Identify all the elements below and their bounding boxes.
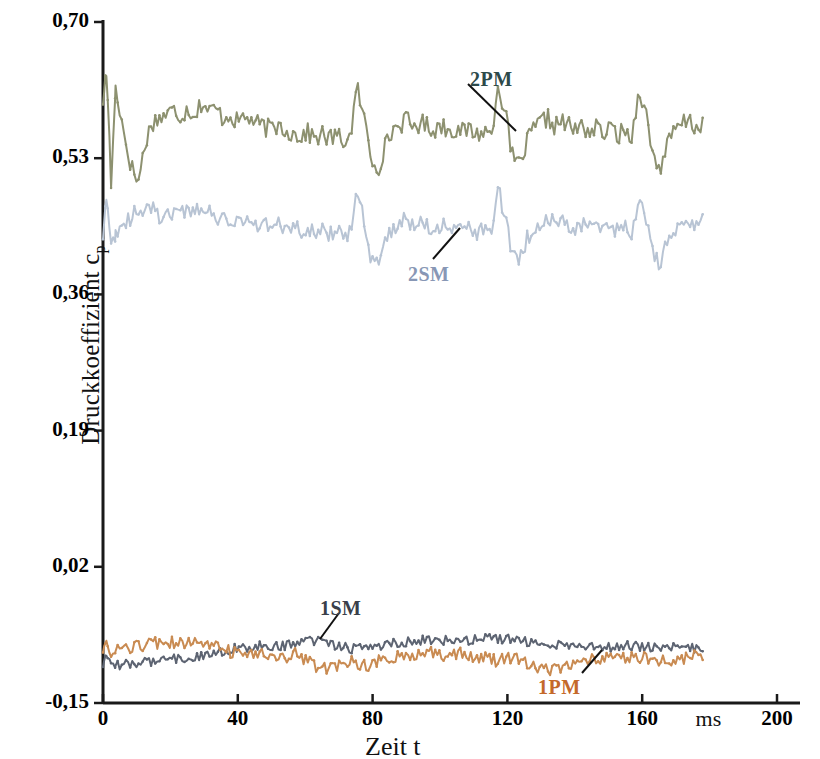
x-axis-unit-label: ms — [696, 706, 722, 732]
x-tick-label: 160 — [597, 706, 687, 731]
y-tick-label: 0,36 — [0, 280, 89, 305]
series-label-1pm: 1PM — [538, 676, 581, 699]
series-2sm — [102, 186, 704, 269]
series-line-1sm — [103, 634, 703, 669]
chart-canvas — [0, 0, 820, 759]
series-label-2sm: 2SM — [408, 263, 450, 286]
series-2pm — [102, 74, 704, 189]
series-label-1sm: 1SM — [320, 597, 362, 620]
annotation-leaders — [320, 84, 602, 673]
leader-line-2pm — [468, 84, 516, 131]
series-line-2sm — [103, 187, 703, 269]
series-markers-1sm — [102, 633, 704, 669]
leader-line-2sm — [433, 228, 460, 259]
series-line-2pm — [103, 75, 703, 188]
x-tick-label: 200 — [732, 706, 820, 731]
series-1sm — [102, 633, 704, 670]
series-label-2pm: 2PM — [470, 68, 513, 91]
y-tick-label: 0,02 — [0, 553, 89, 578]
x-tick-label: 80 — [328, 706, 418, 731]
chart-root: Druckkoeffizient cp -0,150,020,190,360,5… — [0, 0, 820, 759]
y-tick-label: 0,19 — [0, 417, 89, 442]
x-tick-label: 0 — [58, 706, 148, 731]
y-tick-label: 0,70 — [0, 8, 89, 33]
series-1pm — [102, 635, 704, 675]
x-tick-label: 120 — [462, 706, 552, 731]
y-tick-label: 0,53 — [0, 144, 89, 169]
axes-group — [94, 20, 800, 703]
x-tick-label: 40 — [193, 706, 283, 731]
x-axis-title: Zeit t — [365, 732, 421, 759]
data-series-group — [102, 74, 704, 675]
